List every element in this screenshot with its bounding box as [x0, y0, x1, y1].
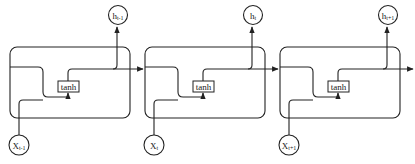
rnn-cell-1: tanh ht-1 Xt-1	[9, 6, 143, 156]
output-label: ht-1	[112, 11, 123, 22]
rnn-cell-3: tanh ht+1 Xt+1	[279, 6, 413, 156]
output-branch	[383, 27, 387, 69]
output-label: ht	[250, 11, 257, 22]
tanh-output-path	[338, 69, 413, 81]
output-label: ht+1	[382, 11, 395, 22]
tanh-label: tanh	[61, 82, 77, 92]
input-label: Xt	[150, 141, 159, 152]
rnn-cell-2: tanh ht Xt	[144, 6, 278, 156]
tanh-label: tanh	[196, 82, 212, 92]
output-branch	[113, 27, 117, 69]
output-branch	[248, 27, 252, 69]
tanh-label: tanh	[331, 82, 347, 92]
rnn-diagram: tanh ht-1 Xt-1 tanh ht Xt tanh ht+1	[0, 0, 415, 164]
input-label: Xt-1	[12, 141, 25, 152]
tanh-output-path	[203, 69, 278, 81]
input-label: Xt+1	[282, 141, 297, 152]
tanh-output-path	[68, 69, 143, 81]
